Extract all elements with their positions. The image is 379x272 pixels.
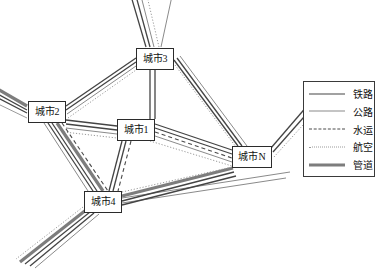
highway-line-icon — [309, 105, 345, 117]
legend-item-railway: 铁路 — [309, 85, 369, 102]
edge-city3-cityN — [174, 56, 247, 147]
legend: 铁路 公路 水运 航空 管道 — [303, 81, 375, 177]
node-city2-label: 城市2 — [35, 107, 60, 117]
transport-network-diagram: 城市3 城市2 城市1 城市N 城市4 铁路 公路 水运 航空 — [0, 0, 379, 272]
legend-label-water: 水运 — [353, 122, 373, 137]
edge-city1-city4 — [109, 141, 131, 191]
legend-item-air: 航空 — [309, 138, 369, 155]
node-city4-label: 城市4 — [91, 197, 116, 207]
legend-label-air: 航空 — [353, 139, 373, 154]
pipeline-line-icon — [309, 159, 345, 171]
edge-city2-city3 — [66, 58, 136, 118]
node-cityN[interactable]: 城市N — [232, 146, 272, 168]
edge-city2-city1 — [64, 120, 117, 138]
edge-city1-cityN — [150, 124, 232, 166]
node-city2[interactable]: 城市2 — [28, 101, 66, 123]
legend-label-railway: 铁路 — [353, 86, 373, 101]
legend-label-highway: 公路 — [353, 104, 373, 119]
edge-city4-to-bottom-left-edge — [16, 207, 99, 268]
railway-line-icon — [309, 88, 345, 100]
node-cityN-label: 城市N — [238, 152, 265, 162]
edge-city3-to-top-edge — [131, 0, 159, 47]
edge-city4-cityN — [122, 167, 236, 205]
node-city3-label: 城市3 — [143, 54, 168, 64]
airway-line-icon — [309, 141, 345, 153]
waterway-line-icon — [309, 123, 345, 135]
node-city1-label: 城市1 — [124, 125, 149, 135]
corridor-top — [161, 0, 172, 47]
edge-city2-to-left-edge — [0, 88, 27, 118]
node-city1[interactable]: 城市1 — [117, 119, 155, 141]
edge-city3-city1 — [150, 70, 155, 119]
legend-item-water: 水运 — [309, 121, 369, 138]
legend-item-pipeline: 管道 — [309, 156, 369, 173]
node-city3[interactable]: 城市3 — [136, 48, 174, 70]
legend-item-highway: 公路 — [309, 103, 369, 120]
node-city4[interactable]: 城市4 — [84, 191, 122, 213]
legend-label-pipeline: 管道 — [353, 157, 373, 172]
